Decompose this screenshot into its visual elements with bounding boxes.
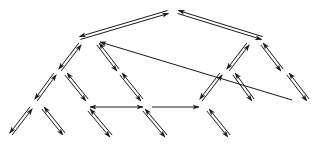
- backward-arrow-icon: [122, 73, 143, 99]
- arrow-pair-a-left: [59, 43, 81, 71]
- arrow-pair-c4-right: [207, 109, 230, 137]
- arrow-pair-b-left: [227, 43, 249, 71]
- backward-arrow-icon: [289, 73, 309, 99]
- forward-arrow-icon: [80, 11, 168, 37]
- forward-arrow-icon: [59, 43, 79, 69]
- arrow-pair-c1-left: [10, 107, 32, 135]
- forward-arrow-icon: [10, 107, 30, 133]
- arrow-pair-a1-left: [35, 73, 56, 101]
- arrow-pair-a2-right: [120, 73, 143, 101]
- forward-arrow-icon: [143, 111, 165, 137]
- backward-arrow-icon: [12, 109, 32, 135]
- forward-arrow-icon: [233, 75, 252, 101]
- arrow-pair-c1-right: [42, 107, 65, 135]
- arrow-pair-b1-right: [233, 73, 254, 101]
- forward-arrow-icon: [120, 75, 141, 101]
- single-arrows-group: [90, 42, 292, 107]
- arrow-pairs-group: [10, 11, 309, 137]
- long-back-arrow-icon: [100, 42, 292, 100]
- backward-arrow-icon: [80, 13, 168, 39]
- arrow-pair-c3-right: [143, 109, 167, 137]
- arrow-pair-c2-right: [88, 109, 112, 137]
- arrow-pair-root-left: [80, 11, 169, 40]
- backward-arrow-icon: [202, 75, 222, 101]
- forward-arrow-icon: [287, 75, 307, 101]
- forward-arrow-icon: [97, 45, 117, 71]
- backward-arrow-icon: [90, 109, 112, 135]
- forward-arrow-icon: [35, 73, 54, 99]
- forward-arrow-icon: [207, 111, 228, 137]
- arrow-pair-b-right: [261, 43, 283, 71]
- arrow-pair-a1-right: [65, 73, 88, 101]
- forward-arrow-icon: [65, 75, 86, 101]
- arrow-pair-b1-left: [200, 73, 222, 101]
- backward-arrow-icon: [145, 109, 167, 135]
- forward-arrow-icon: [261, 45, 281, 71]
- forward-arrow-icon: [88, 111, 110, 137]
- backward-arrow-icon: [209, 109, 230, 135]
- arrow-pair-root-right: [178, 11, 263, 40]
- backward-arrow-icon: [229, 45, 249, 71]
- backward-arrow-icon: [37, 75, 56, 101]
- backward-arrow-icon: [44, 107, 65, 133]
- backward-arrow-icon: [178, 11, 262, 37]
- forward-arrow-icon: [42, 109, 63, 135]
- forward-arrow-icon: [178, 13, 262, 39]
- backward-arrow-icon: [67, 73, 88, 99]
- arrow-lattice-diagram: [0, 0, 316, 144]
- backward-arrow-icon: [263, 43, 283, 69]
- forward-arrow-icon: [227, 43, 247, 69]
- backward-arrow-icon: [61, 45, 81, 71]
- arrow-pair-b2-right: [287, 73, 309, 101]
